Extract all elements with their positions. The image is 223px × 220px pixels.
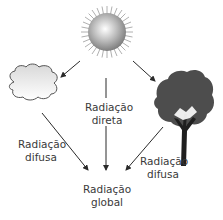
arrow-sun-to-cloud <box>61 61 80 77</box>
label-diffuse-right: Radiação difusa <box>140 155 186 181</box>
label-global: Radiação global <box>83 183 131 209</box>
tree-icon <box>154 70 214 166</box>
label-diffuse-right-line2: difusa <box>140 168 186 181</box>
label-diffuse-left-line1: Radiação <box>18 138 64 151</box>
label-direct-line2: direta <box>85 114 129 127</box>
label-global-line2: global <box>83 196 131 209</box>
cloud-icon <box>9 64 57 100</box>
label-direct-line1: Radiação <box>85 101 129 114</box>
sun-icon <box>81 6 133 58</box>
arrow-sun-to-tree <box>133 61 155 81</box>
label-direct: Radiação direta <box>85 101 129 127</box>
label-diffuse-left: Radiação difusa <box>18 138 64 164</box>
label-diffuse-right-line1: Radiação <box>140 155 186 168</box>
label-global-line1: Radiação <box>83 183 131 196</box>
label-diffuse-left-line2: difusa <box>18 151 64 164</box>
